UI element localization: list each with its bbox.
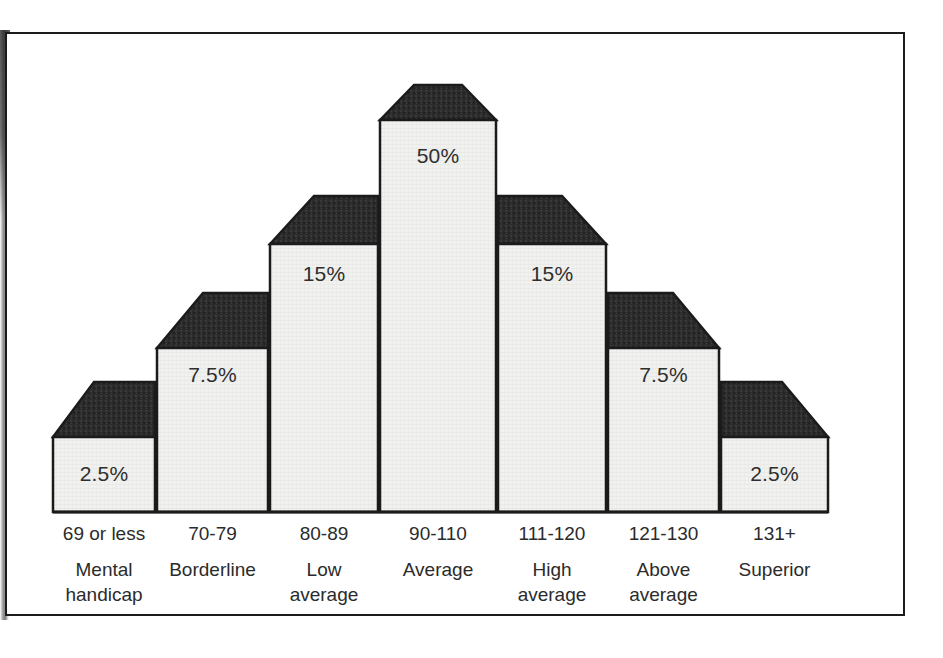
bar-group-2[interactable] (157, 293, 268, 512)
bar-top-face-4 (380, 85, 496, 120)
bar-top-face-7 (721, 382, 828, 437)
bar-top-face-3 (270, 196, 378, 244)
bar-group-7[interactable] (721, 382, 828, 512)
bar-group-6[interactable] (608, 293, 719, 512)
axis-name-label-4-line1: Average (380, 557, 496, 582)
axis-name-label-2-line1: Borderline (150, 557, 275, 582)
axis-name-label-3-line2: average (270, 582, 378, 607)
axis-name-label-4: Average (380, 557, 496, 582)
bar-top-face-5 (498, 196, 606, 244)
bar-top-face-1 (53, 382, 155, 437)
bar-value-label-2: 7.5% (157, 363, 268, 387)
figure-stage: 2.5% 7.5% 15% 50% 15% 7.5% 2.5% 69 or le… (0, 0, 943, 658)
axis-range-label-4: 90-110 (380, 523, 496, 545)
axis-name-label-1-line1: Mental (40, 557, 168, 582)
axis-range-label-3: 80-89 (270, 523, 378, 545)
bar-value-label-5: 15% (498, 262, 606, 286)
bar-top-face-2 (157, 293, 268, 348)
bar-value-label-7: 2.5% (721, 462, 828, 486)
bar-front-face-4 (380, 120, 496, 512)
bar-group-5[interactable] (498, 196, 606, 512)
axis-range-label-7: 131+ (721, 523, 828, 545)
axis-name-label-3: Low average (270, 557, 378, 607)
axis-range-label-2: 70-79 (157, 523, 268, 545)
bar-group-1[interactable] (53, 382, 155, 512)
bar-value-label-4: 50% (380, 144, 496, 168)
axis-name-label-5-line1: High (498, 557, 606, 582)
axis-range-label-1: 69 or less (40, 523, 168, 545)
axis-name-label-6-line1: Above (608, 557, 719, 582)
axis-name-label-3-line1: Low (270, 557, 378, 582)
bar-value-label-6: 7.5% (608, 363, 719, 387)
axis-name-label-7: Superior (716, 557, 833, 582)
axis-range-label-5: 111-120 (498, 523, 606, 545)
bar-value-label-3: 15% (270, 262, 378, 286)
axis-name-label-6-line2: average (608, 582, 719, 607)
axis-range-label-6: 121-130 (608, 523, 719, 545)
axis-name-label-5: High average (498, 557, 606, 607)
axis-name-label-7-line1: Superior (716, 557, 833, 582)
bar-value-label-1: 2.5% (53, 462, 155, 486)
bar-group-3[interactable] (270, 196, 378, 512)
axis-name-label-5-line2: average (498, 582, 606, 607)
bar-top-face-6 (608, 293, 719, 348)
axis-name-label-6: Above average (608, 557, 719, 607)
chart-plot-area: 2.5% 7.5% 15% 50% 15% 7.5% 2.5% 69 or le… (0, 0, 943, 658)
axis-name-label-2: Borderline (150, 557, 275, 582)
axis-name-label-1: Mental handicap (40, 557, 168, 607)
axis-name-label-1-line2: handicap (40, 582, 168, 607)
